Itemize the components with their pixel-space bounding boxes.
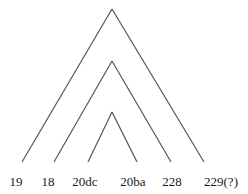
clade-inner xyxy=(88,112,137,162)
branch-18 xyxy=(54,61,112,162)
branch-20ba xyxy=(112,112,137,162)
tree-diagram: 19 18 20dc 20ba 228 229(?) xyxy=(0,0,248,194)
branch-20dc xyxy=(88,112,112,162)
clade-outer xyxy=(22,9,204,162)
branch-228 xyxy=(112,61,171,162)
leaf-label-19: 19 xyxy=(10,174,23,190)
tree-branches xyxy=(0,0,248,194)
leaf-label-20ba: 20ba xyxy=(120,174,145,190)
leaf-label-18: 18 xyxy=(42,174,55,190)
clade-middle xyxy=(54,61,171,162)
leaf-label-228: 228 xyxy=(162,174,182,190)
leaf-label-229: 229(?) xyxy=(204,174,238,190)
leaf-label-20dc: 20dc xyxy=(72,174,97,190)
